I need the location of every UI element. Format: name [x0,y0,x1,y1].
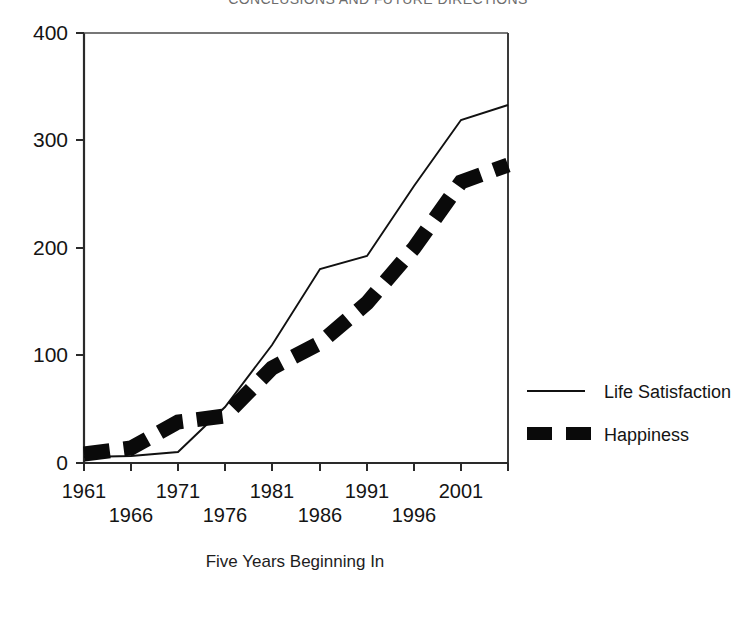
x-tick-label-1961: 1961 [44,481,124,501]
legend-label-life-satisfaction: Life Satisfaction [604,383,731,401]
x-tick-label-2001: 2001 [421,481,501,501]
y-axis-ticks [76,33,84,463]
x-tick-label-1981: 1981 [232,481,312,501]
legend-label-happiness: Happiness [604,426,689,444]
x-tick-label-1991: 1991 [327,481,407,501]
x-axis-ticks [84,463,508,471]
series-happiness [84,165,508,454]
chart-figure: CONCLUSIONS AND FUTURE DIRECTIONS [0,0,756,621]
x-tick-label-1971: 1971 [138,481,218,501]
series-life-satisfaction [84,105,508,457]
x-tick-label-1976: 1976 [185,505,265,525]
x-tick-label-1966: 1966 [91,505,171,525]
plot-canvas [0,0,756,621]
y-tick-label-200: 200 [4,237,68,258]
x-axis-title: Five Years Beginning In [115,553,475,570]
x-tick-label-1996: 1996 [374,505,454,525]
x-tick-label-1986: 1986 [280,505,360,525]
y-tick-label-300: 300 [4,129,68,150]
axis-frame [84,33,508,463]
y-tick-label-100: 100 [4,344,68,365]
y-tick-label-400: 400 [4,22,68,43]
y-tick-label-0: 0 [4,452,68,473]
